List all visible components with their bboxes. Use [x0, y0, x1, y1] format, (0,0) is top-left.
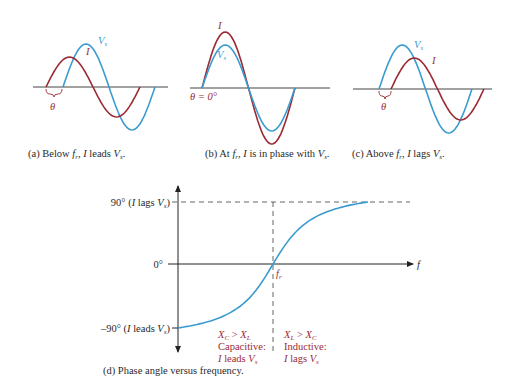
panel-c-theta-label: θ: [381, 101, 386, 112]
panel-c-theta-brace-icon: [379, 91, 391, 99]
phase-figure: θ I Vs (a) Below fr, I leads Vs. I Vs θ …: [0, 0, 510, 388]
svg-text:Inductive:: Inductive:: [284, 341, 327, 352]
y-label-zero: 0°: [154, 259, 163, 270]
panel-b-waveforms: I Vs θ = 0°: [190, 20, 330, 144]
svg-text:Capacitive:: Capacitive:: [218, 341, 266, 352]
panel-a-current-label: I: [85, 46, 90, 57]
svg-text:I lags Vs: I lags Vs: [283, 353, 319, 366]
y-label-ninety: 90° (I lags Vs): [111, 197, 171, 210]
x-axis-label: f: [417, 259, 422, 270]
capacitive-region-label: XC > XL Capacitive: I leads Vs: [217, 329, 266, 366]
panel-a-theta-brace-icon: [46, 89, 62, 97]
panel-a-voltage-label: Vs: [98, 35, 107, 48]
panel-d-caption: (d) Phase angle versus frequency.: [103, 365, 244, 377]
phase-plot: 90° (I lags Vs) 0° –90° (I leads Vs) f f…: [100, 186, 422, 366]
panel-b-caption: (b) At fr, I is in phase with Vs.: [205, 148, 329, 161]
panel-a-caption: (a) Below fr, I leads Vs.: [28, 148, 125, 161]
y-label-minus-ninety: –90° (I leads Vs): [100, 323, 171, 336]
inductive-region-label: XL > XC Inductive: I lags Vs: [283, 329, 327, 366]
panel-c-waveforms: θ I Vs: [353, 39, 492, 133]
panel-b-voltage-label: Vs: [217, 49, 226, 62]
panel-a-theta-label: θ: [50, 101, 55, 112]
fr-label: fr: [276, 268, 282, 281]
panel-b-current-label: I: [217, 20, 222, 31]
panel-c-voltage-label: Vs: [414, 39, 423, 52]
panel-c-caption: (c) Above fr, I lags Vs.: [352, 148, 445, 161]
panel-c-current-label: I: [431, 55, 436, 66]
panel-a-waveforms: θ I Vs: [33, 35, 168, 130]
panel-b-theta-label: θ = 0°: [190, 91, 218, 102]
